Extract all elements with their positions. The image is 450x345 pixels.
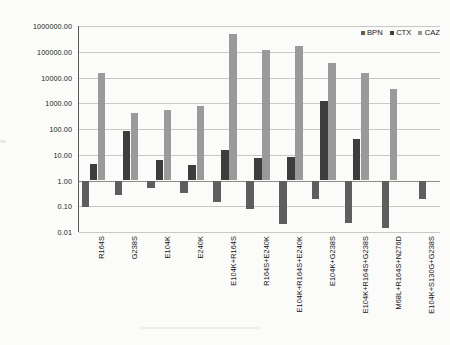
y-axis-tick-label: 1.00 <box>58 176 72 185</box>
x-axis-tick-label: E104K+S130G+G238S <box>427 236 436 314</box>
bar-caz[interactable] <box>197 106 205 180</box>
bar-caz[interactable] <box>131 113 139 181</box>
legend-swatch-ctx <box>390 31 394 35</box>
bar-ctx[interactable] <box>254 158 262 181</box>
x-axis-tick-label: R164S+E240K <box>262 236 271 286</box>
y-axis-tick-label: 10.00 <box>54 150 73 159</box>
y-axis-tick-label: 0.01 <box>58 228 72 237</box>
bar-bpn[interactable] <box>82 181 90 208</box>
bar-group <box>375 26 408 232</box>
bar-bpn[interactable] <box>246 181 254 210</box>
x-axis-tick-label: E104K+G238S <box>328 236 337 286</box>
y-axis-tick-label: 0.10 <box>58 202 72 211</box>
bar-bpn[interactable] <box>419 181 427 200</box>
bar-caz[interactable] <box>262 50 270 181</box>
bar-ctx[interactable] <box>221 150 229 180</box>
bar-group <box>79 26 112 232</box>
bar-ctx[interactable] <box>90 164 98 181</box>
bar-caz[interactable] <box>295 46 303 180</box>
legend-label: CTX <box>396 28 411 37</box>
bar-group <box>145 26 178 232</box>
bar-group <box>211 26 244 232</box>
bar-ctx[interactable] <box>353 139 361 181</box>
y-axis-tick-label: 1000.00 <box>45 99 72 108</box>
legend-label: BPN <box>367 28 383 37</box>
x-axis-tick-label: R164S <box>97 236 106 259</box>
scan-artifact-left <box>0 140 6 143</box>
bar-group <box>408 26 441 232</box>
x-axis-tick-label: E104K+R164S+G238S <box>361 236 370 313</box>
bar-caz[interactable] <box>328 63 336 181</box>
bar-caz[interactable] <box>164 110 172 181</box>
y-axis-tick-labels: 1000000.00100000.0010000.001000.00100.00… <box>0 0 78 345</box>
bar-bpn[interactable] <box>345 181 353 223</box>
scan-artifact-bottom <box>140 327 260 329</box>
bar-bpn[interactable] <box>115 181 123 196</box>
bar-caz[interactable] <box>98 73 106 181</box>
bar-ctx[interactable] <box>123 131 131 181</box>
bar-group <box>244 26 277 232</box>
bar-group <box>342 26 375 232</box>
bar-group <box>112 26 145 232</box>
bar-bpn[interactable] <box>147 181 155 188</box>
bar-bpn[interactable] <box>279 181 287 224</box>
bar-group <box>178 26 211 232</box>
x-axis-tick-label: M68L+R164S+N276D <box>394 236 403 310</box>
chart-root: 1000000.00100000.0010000.001000.00100.00… <box>0 0 450 345</box>
bar-caz[interactable] <box>390 89 398 180</box>
bar-ctx[interactable] <box>188 165 196 181</box>
x-axis-tick-label: E240K <box>196 236 205 258</box>
bar-caz[interactable] <box>361 73 369 181</box>
legend-label: CAZ <box>425 28 440 37</box>
y-axis-tick-label: 10000.00 <box>41 73 72 82</box>
bar-ctx[interactable] <box>320 101 328 180</box>
y-axis-tick-label: 100.00 <box>49 125 72 134</box>
bar-bpn[interactable] <box>213 181 221 202</box>
bar-group <box>309 26 342 232</box>
x-axis-tick-label: G238S <box>130 236 139 259</box>
y-axis-tick-label: 1000000.00 <box>33 22 72 31</box>
bar-groups <box>79 26 440 232</box>
legend-swatch-caz <box>418 31 422 35</box>
bar-group <box>276 26 309 232</box>
y-axis-tick-label: 100000.00 <box>37 47 72 56</box>
bar-bpn[interactable] <box>180 181 188 193</box>
legend-swatch-bpn <box>361 31 365 35</box>
bar-ctx[interactable] <box>156 160 164 180</box>
x-axis-tick-label: E104K+R164S <box>229 236 238 286</box>
bar-caz[interactable] <box>229 34 237 181</box>
legend-item[interactable]: BPN <box>361 28 383 37</box>
legend-item[interactable]: CAZ <box>418 28 440 37</box>
legend-item[interactable]: CTX <box>390 28 412 37</box>
x-axis-tick-label: E104K <box>163 236 172 258</box>
x-axis-tick-label: E104K+R164S+E240K <box>295 236 304 312</box>
plot-area <box>78 26 440 232</box>
chart-legend: BPNCTXCAZ <box>361 28 441 37</box>
bar-bpn[interactable] <box>382 181 390 229</box>
bar-ctx[interactable] <box>287 157 295 180</box>
bar-bpn[interactable] <box>312 181 320 200</box>
